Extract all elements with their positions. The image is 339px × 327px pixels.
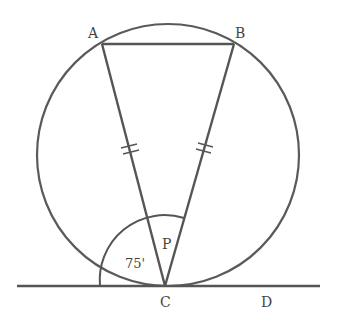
chord-bc	[165, 44, 234, 286]
label-d: D	[261, 294, 272, 310]
label-a: A	[87, 25, 99, 41]
angle-label-p: P	[162, 236, 171, 252]
angle-label-75: 75'	[125, 256, 145, 271]
chord-ac	[102, 44, 165, 286]
label-c: C	[160, 294, 171, 310]
geometry-diagram: A B C D 75' P	[0, 0, 339, 327]
label-b: B	[235, 25, 245, 41]
